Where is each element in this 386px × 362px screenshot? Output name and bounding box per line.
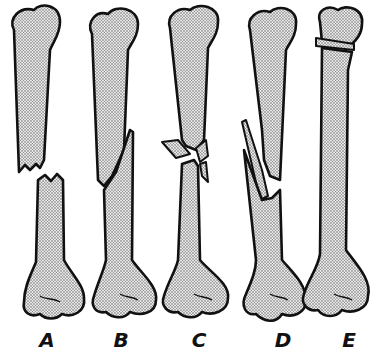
bone-e [303,7,369,316]
label-a: A [32,328,62,352]
bone-a [12,6,84,319]
label-c: C [184,328,214,352]
label-e: E [334,328,364,352]
bone-b [90,9,156,318]
bone-d [242,8,306,321]
label-d: D [268,328,298,352]
bone-c [162,6,228,317]
fracture-diagram [0,0,386,362]
label-b: B [106,328,136,352]
